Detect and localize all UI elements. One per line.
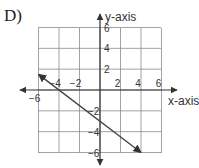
y-tick-label: −4: [88, 127, 100, 138]
y-tick-label: −2: [88, 106, 100, 117]
x-tick-label: 2: [115, 78, 121, 89]
x-tick-label: −2: [70, 78, 82, 89]
x-tick-label: 6: [156, 78, 162, 89]
y-tick-label: 6: [104, 23, 110, 34]
x-tick-label: −6: [29, 93, 41, 104]
x-tick-label: 4: [135, 78, 141, 89]
y-tick-label: −6: [88, 148, 100, 159]
y-axis-label: y-axis: [105, 10, 136, 24]
y-tick-label: 4: [104, 43, 110, 54]
coordinate-plane: x-axisy-axis−6−4−2246642−2−4−6: [0, 0, 199, 168]
x-axis-label: x-axis: [168, 94, 199, 108]
graph-line: [39, 74, 142, 152]
y-tick-label: 2: [104, 64, 110, 75]
